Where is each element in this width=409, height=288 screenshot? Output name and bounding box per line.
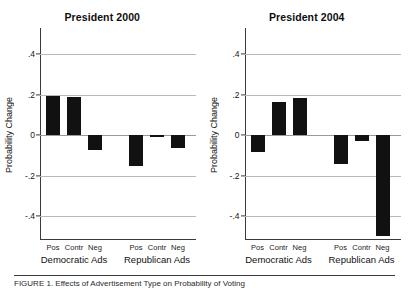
bar xyxy=(293,98,307,135)
panel-title: President 2004 xyxy=(205,11,409,23)
bar xyxy=(150,135,164,137)
bar xyxy=(88,135,102,150)
group-label-row: Democratic AdsRepublican Ads xyxy=(245,254,401,268)
chart-panel-2: President 2004Probability Change.4.20-.2… xyxy=(205,0,409,272)
x-tick-label: Pos xyxy=(47,243,60,252)
plot-area xyxy=(40,31,196,237)
x-tick-label: Neg xyxy=(376,243,390,252)
y-tick-label: .2 xyxy=(214,90,240,100)
bar xyxy=(171,135,185,148)
gridline xyxy=(245,54,401,55)
y-tick-label: .4 xyxy=(9,49,35,59)
bar xyxy=(67,97,81,135)
x-tick-label: Contr xyxy=(65,243,83,252)
bar xyxy=(46,96,60,135)
y-tick-label: 0 xyxy=(9,130,35,140)
y-tick-label: -.4 xyxy=(214,211,240,221)
gridline xyxy=(40,216,196,217)
group-label: Democratic Ads xyxy=(41,254,108,265)
group-label: Democratic Ads xyxy=(245,254,312,265)
group-label: Republican Ads xyxy=(124,254,190,265)
x-tick-label: Neg xyxy=(293,243,307,252)
x-tick-label: Contr xyxy=(148,243,166,252)
plot-area xyxy=(245,31,401,237)
x-tick-label: Neg xyxy=(171,243,185,252)
x-tick-label-row: PosContrNegPosContrNeg xyxy=(40,243,196,254)
chart-panel-1: President 2000Probability Change.4.20-.2… xyxy=(0,0,205,272)
x-tick-label-row: PosContrNegPosContrNeg xyxy=(245,243,401,254)
gridline xyxy=(245,95,401,96)
x-tick-label: Neg xyxy=(88,243,102,252)
gridline xyxy=(40,54,196,55)
panel-title: President 2000 xyxy=(0,11,205,23)
bar xyxy=(334,135,348,164)
y-tick-label: -.2 xyxy=(9,171,35,181)
x-tick-label: Contr xyxy=(269,243,287,252)
gridline xyxy=(40,95,196,96)
group-label-row: Democratic AdsRepublican Ads xyxy=(40,254,196,268)
x-tick-label: Contr xyxy=(352,243,370,252)
caption-divider xyxy=(14,275,395,276)
figure-caption: FIGURE 1. Effects of Advertisement Type … xyxy=(14,279,395,288)
bar xyxy=(272,102,286,135)
group-label: Republican Ads xyxy=(328,254,394,265)
bar xyxy=(355,135,369,141)
bar xyxy=(251,135,265,152)
y-tick-label: -.4 xyxy=(9,211,35,221)
x-axis-spine xyxy=(245,239,401,240)
gridline xyxy=(40,176,196,177)
bar xyxy=(376,135,390,236)
x-tick-label: Pos xyxy=(334,243,347,252)
bar xyxy=(129,135,143,166)
y-tick-label: 0 xyxy=(214,130,240,140)
y-tick-label: -.2 xyxy=(214,171,240,181)
y-tick-label: .2 xyxy=(9,90,35,100)
y-tick-label: .4 xyxy=(214,49,240,59)
x-tick-label: Pos xyxy=(251,243,264,252)
panel-row: President 2000Probability Change.4.20-.2… xyxy=(0,0,409,272)
x-axis-spine xyxy=(40,239,196,240)
figure-container: President 2000Probability Change.4.20-.2… xyxy=(0,0,409,288)
x-tick-label: Pos xyxy=(130,243,143,252)
